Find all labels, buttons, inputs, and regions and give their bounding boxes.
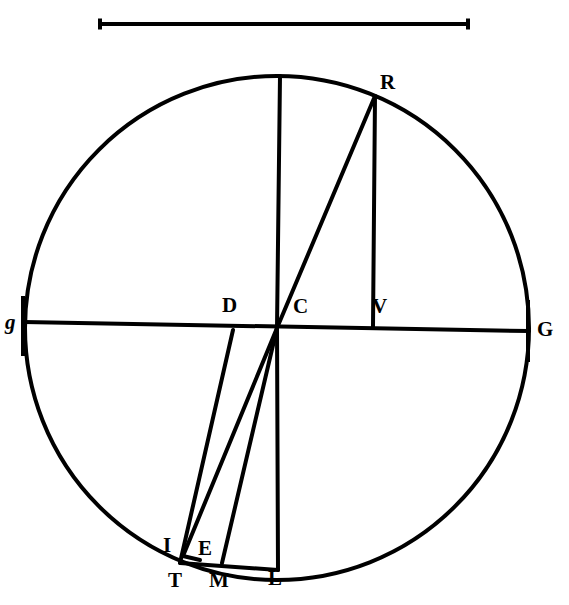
point-label-E: E [198, 538, 212, 559]
point-label-M: M [209, 570, 229, 591]
line-D-to-T [180, 330, 233, 563]
point-label-g-left: g [5, 312, 16, 333]
point-label-L: L [268, 568, 282, 589]
scale-bar-group [100, 19, 468, 30]
point-label-T: T [168, 570, 182, 591]
perpendicular-R-to-V-line [373, 96, 375, 327]
vertical-radius-C-to-L [277, 328, 278, 570]
point-label-I: I [163, 535, 171, 556]
point-label-C: C [293, 296, 308, 317]
chord-C-to-R-line [277, 96, 375, 328]
vertical-radius-top-to-C [277, 76, 280, 328]
point-label-G-right: G [537, 319, 553, 340]
point-label-V: V [372, 296, 387, 317]
figure-root: gGRDCVIETML [0, 0, 569, 605]
geometry-diagram [0, 0, 569, 605]
point-label-D: D [222, 295, 237, 316]
point-label-R: R [380, 72, 395, 93]
